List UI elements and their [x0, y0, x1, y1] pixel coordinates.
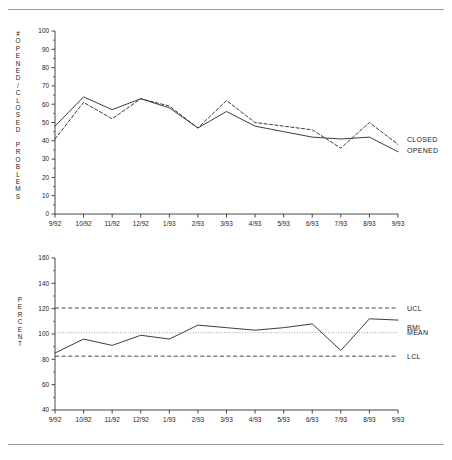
y-tick-label: 60: [42, 101, 50, 108]
y-axis-title-char: C: [18, 318, 23, 325]
y-tick-label: 50: [42, 119, 50, 126]
y-axis-title-char: O: [16, 156, 21, 163]
y-axis-title-char: /: [17, 82, 19, 89]
x-tick-label: 4/93: [249, 220, 262, 227]
x-tick-label: 11/92: [104, 220, 120, 227]
x-tick-label: 7/93: [335, 220, 348, 227]
y-axis-title-char: O: [16, 104, 21, 111]
y-tick-label: 20: [42, 174, 50, 181]
y-axis-title-char: P: [18, 296, 22, 303]
x-tick-label: 2/93: [192, 220, 205, 227]
y-axis-title-char: C: [16, 89, 21, 96]
y-tick-label: 40: [42, 406, 50, 413]
x-tick-label: 9/92: [49, 220, 62, 227]
y-axis-title-char: O: [16, 37, 21, 44]
y-axis-title-char: D: [16, 126, 21, 133]
y-axis-title-char: #: [16, 30, 20, 37]
y-axis-title-char: E: [16, 178, 20, 185]
x-tick-label: 3/93: [220, 416, 233, 423]
y-axis-title-char: E: [16, 52, 20, 59]
x-tick-label: 10/92: [76, 416, 92, 423]
y-tick-label: 60: [42, 381, 50, 388]
y-tick-label: 160: [38, 254, 49, 261]
series-label-bmi: BMI: [407, 324, 420, 331]
chart-bottom-svg: 4060801001201401609/9210/9211/9212/921/9…: [0, 248, 452, 444]
x-tick-label: 1/93: [163, 220, 176, 227]
reference-line-label-lcl: LCL: [407, 353, 421, 360]
x-tick-label: 2/93: [192, 416, 205, 423]
x-tick-label: 5/93: [277, 220, 290, 227]
series-line-bmi: [55, 319, 398, 353]
x-tick-label: 5/93: [277, 416, 290, 423]
x-tick-label: 9/92: [49, 416, 62, 423]
y-axis-title-char: T: [18, 340, 22, 347]
x-tick-label: 7/93: [335, 416, 348, 423]
y-tick-label: 0: [45, 210, 49, 217]
chart-percent-bmi-control: 4060801001201401609/9210/9211/9212/921/9…: [0, 248, 452, 444]
series-line-closed: [55, 99, 398, 148]
y-tick-label: 70: [42, 82, 50, 89]
y-tick-label: 140: [38, 280, 49, 287]
y-tick-label: 10: [42, 192, 50, 199]
y-axis-title-char: M: [15, 185, 20, 192]
figure-page: 01020304050607080901009/9210/9211/9212/9…: [0, 0, 452, 460]
y-axis-title-char: L: [16, 97, 20, 104]
x-tick-label: 11/92: [104, 416, 120, 423]
series-label-opened: OPENED: [407, 147, 438, 154]
x-tick-label: 8/93: [363, 220, 376, 227]
y-axis-title-char: B: [16, 163, 20, 170]
y-axis-title-char: N: [16, 60, 21, 67]
bottom-horizontal-rule: [8, 444, 444, 445]
reference-line-label-ucl: UCL: [407, 305, 422, 312]
x-tick-label: 9/93: [392, 416, 405, 423]
chart-top-svg: 01020304050607080901009/9210/9211/9212/9…: [0, 20, 452, 235]
y-axis-title-char: E: [16, 119, 20, 126]
y-axis-title-char: E: [18, 303, 22, 310]
y-tick-label: 100: [38, 330, 49, 337]
x-tick-label: 1/93: [163, 416, 176, 423]
y-tick-label: 40: [42, 137, 50, 144]
y-tick-label: 80: [42, 64, 50, 71]
y-tick-label: 90: [42, 46, 50, 53]
y-axis-title-char: P: [16, 45, 20, 52]
x-tick-label: 10/92: [76, 220, 92, 227]
y-axis-title-char: L: [16, 171, 20, 178]
y-axis-title-char: E: [18, 326, 22, 333]
y-axis-title-char: E: [16, 67, 20, 74]
y-tick-label: 30: [42, 155, 50, 162]
x-tick-label: 12/92: [133, 220, 149, 227]
y-axis-title-char: P: [16, 141, 20, 148]
y-tick-label: 120: [38, 305, 49, 312]
y-axis-title-char: N: [18, 333, 23, 340]
x-tick-label: 8/93: [363, 416, 376, 423]
y-tick-label: 80: [42, 356, 50, 363]
y-axis-title-char: D: [16, 74, 21, 81]
y-tick-label: 100: [38, 27, 49, 34]
y-axis-title-char: R: [16, 148, 21, 155]
series-label-closed: CLOSED: [407, 136, 438, 143]
x-tick-label: 9/93: [392, 220, 405, 227]
y-axis-title-char: S: [16, 193, 20, 200]
chart-opened-closed-problems: 01020304050607080901009/9210/9211/9212/9…: [0, 20, 452, 235]
top-horizontal-rule: [8, 9, 444, 10]
x-tick-label: 12/92: [133, 416, 149, 423]
y-axis-title-char: S: [16, 111, 20, 118]
x-tick-label: 6/93: [306, 220, 319, 227]
x-tick-label: 3/93: [220, 220, 233, 227]
y-axis-title-char: R: [18, 311, 23, 318]
series-line-opened: [55, 97, 398, 152]
x-tick-label: 6/93: [306, 416, 319, 423]
x-tick-label: 4/93: [249, 416, 262, 423]
